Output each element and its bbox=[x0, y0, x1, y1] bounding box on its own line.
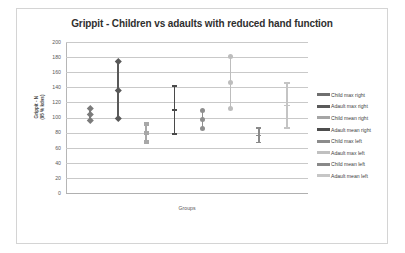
y-tick-label: 140 bbox=[35, 84, 61, 90]
legend-item[interactable]: Child max right bbox=[317, 89, 405, 101]
legend-item[interactable]: Adault mean left bbox=[317, 170, 405, 182]
legend-swatch-icon bbox=[317, 128, 330, 131]
y-tick-label: 160 bbox=[35, 69, 61, 75]
legend-item-label: Child mean right bbox=[331, 115, 368, 121]
data-point-marker bbox=[284, 82, 289, 84]
legend-swatch-icon bbox=[317, 93, 330, 96]
y-tick-label: 0 bbox=[35, 190, 61, 196]
legend-swatch-icon bbox=[317, 140, 330, 143]
legend-item-label: Child mean left bbox=[331, 161, 365, 167]
legend-item-label: Child max left bbox=[331, 138, 362, 144]
y-tick-label: 100 bbox=[35, 114, 61, 120]
legend-item-label: Adault max right bbox=[331, 103, 368, 109]
legend-swatch-icon bbox=[317, 174, 330, 177]
data-point-marker bbox=[284, 105, 289, 107]
legend-item-label: Adault mean left bbox=[331, 173, 368, 179]
series-marker-group bbox=[66, 42, 308, 193]
legend-item[interactable]: Child mean left bbox=[317, 159, 405, 171]
legend-swatch-icon bbox=[317, 163, 330, 166]
y-tick-label: 200 bbox=[35, 39, 61, 45]
chart-title: Grippit - Children vs adaults with reduc… bbox=[17, 18, 387, 29]
y-tick-label: 180 bbox=[35, 54, 61, 60]
data-point-marker bbox=[284, 127, 289, 129]
x-axis-title: Groups bbox=[66, 205, 308, 211]
gridline bbox=[66, 193, 308, 194]
legend-item[interactable]: Adault max right bbox=[317, 101, 405, 113]
legend-item-label: Adault max left bbox=[331, 150, 365, 156]
y-tick-label: 80 bbox=[35, 129, 61, 135]
legend-item[interactable]: Adault max left bbox=[317, 147, 405, 159]
legend-swatch-icon bbox=[317, 105, 330, 108]
y-tick-label: 40 bbox=[35, 160, 61, 166]
legend-item-label: Child max right bbox=[331, 92, 365, 98]
legend-item-label: Adault mean right bbox=[331, 127, 371, 133]
legend-item[interactable]: Child mean right bbox=[317, 112, 405, 124]
y-tick-label: 20 bbox=[35, 175, 61, 181]
chart-container: Grippit - Children vs adaults with reduc… bbox=[16, 8, 388, 244]
legend-item[interactable]: Adault mean right bbox=[317, 124, 405, 136]
y-tick-label: 120 bbox=[35, 99, 61, 105]
legend-item[interactable]: Child max left bbox=[317, 135, 405, 147]
chart-legend: Child max rightAdault max rightChild mea… bbox=[317, 89, 405, 182]
y-tick-label: 60 bbox=[35, 145, 61, 151]
legend-swatch-icon bbox=[317, 151, 330, 154]
plot-area bbox=[66, 42, 308, 193]
legend-swatch-icon bbox=[317, 116, 330, 119]
